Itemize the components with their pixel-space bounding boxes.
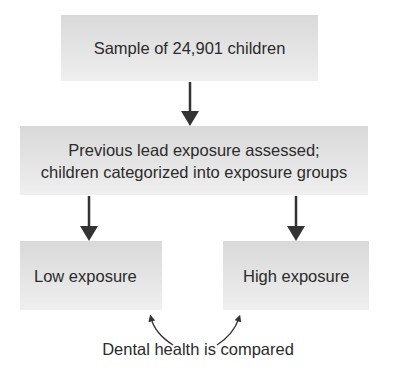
arrow-sample-to-assessment	[181, 82, 199, 126]
assessment-box: Previous lead exposure assessed; childre…	[20, 126, 368, 195]
low-exposure-box: Low exposure	[20, 241, 162, 310]
sample-label: Sample of 24,901 children	[94, 37, 286, 59]
assessment-line-1: Previous lead exposure assessed;	[41, 139, 347, 161]
high-exposure-label: High exposure	[243, 265, 349, 287]
arrow-to-high-exposure	[287, 196, 305, 241]
arrow-to-low-exposure	[80, 196, 98, 241]
high-exposure-box: High exposure	[223, 241, 369, 310]
sample-box: Sample of 24,901 children	[61, 15, 318, 81]
comparison-caption: Dental health is compared	[0, 340, 396, 359]
low-exposure-label: Low exposure	[34, 265, 137, 287]
assessment-line-2: children categorized into exposure group…	[41, 161, 347, 183]
